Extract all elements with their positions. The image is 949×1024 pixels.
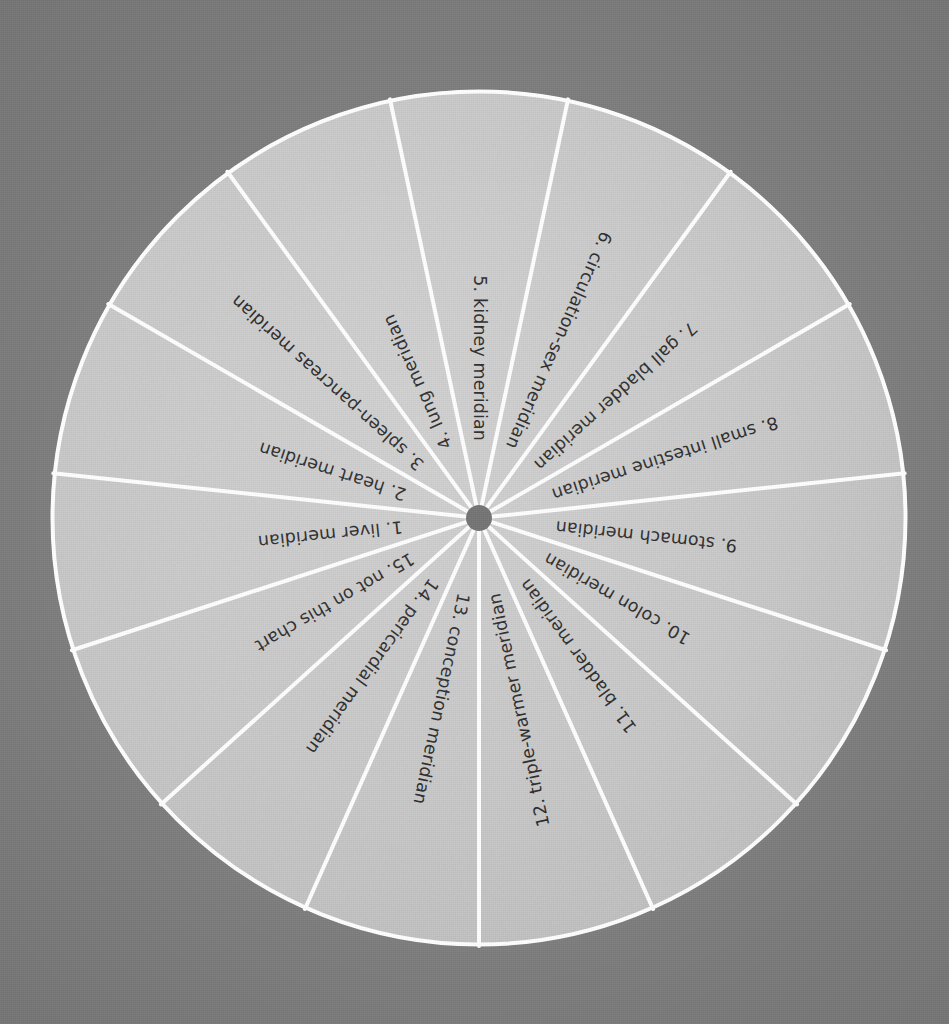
meridian-wheel-diagram: 1. liver meridian2. heart meridian3. spl… <box>0 0 949 1024</box>
sector-label-text: 5. kidney meridian <box>470 275 490 441</box>
sector-label-5: 5. kidney meridian <box>470 275 490 441</box>
center-hub[interactable] <box>466 505 492 531</box>
wheel-svg: 1. liver meridian2. heart meridian3. spl… <box>0 0 949 1024</box>
